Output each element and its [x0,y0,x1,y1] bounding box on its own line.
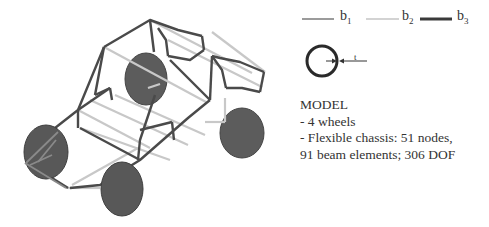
model-line-elements: 91 beam elements; 306 DOF [300,147,455,164]
model-title: MODEL [300,97,455,114]
model-description: MODEL- 4 wheels- Flexible chassis: 51 no… [300,97,455,163]
model-line-chassis: - Flexible chassis: 51 nodes, [300,130,455,147]
legend-label-b2: b2 [402,8,414,26]
model-line-wheels: - 4 wheels [300,114,455,131]
legend-label-b1: b1 [340,8,352,26]
chassis-model-figure: b1 b2 b3 t MODEL- 4 wheels- Flexible cha… [0,0,489,227]
thickness-label: t [354,52,357,62]
legend-label-b3: b3 [457,8,469,26]
cross-section-icon [307,46,367,76]
